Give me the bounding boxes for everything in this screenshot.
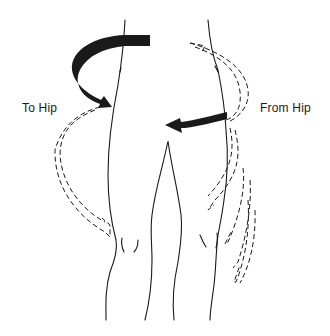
to-hip-solid-arrow	[72, 35, 150, 108]
right-leg-outer-line	[208, 20, 227, 320]
left-knee-mark	[122, 238, 124, 252]
from-hip-label: From Hip	[260, 101, 311, 115]
to-hip-label: To Hip	[22, 101, 57, 115]
left-leg-outer-line	[106, 20, 125, 320]
to-hip-dashed-path	[55, 107, 110, 237]
from-hip-solid-arrow	[165, 112, 227, 133]
right-knee-mark	[200, 235, 206, 247]
left-knee-mark-2	[134, 240, 138, 252]
leg-diagram	[0, 0, 330, 336]
inner-leg-lines	[145, 141, 182, 320]
from-hip-dashed-paths	[190, 43, 255, 283]
